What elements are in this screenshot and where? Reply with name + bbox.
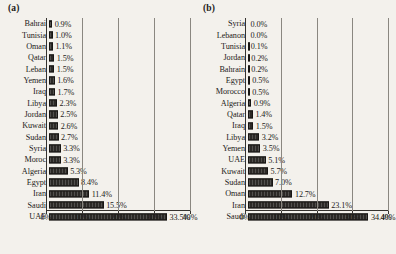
category-label: Iran [203, 201, 248, 210]
bar-value-label: 8.4% [79, 178, 98, 187]
bar-row: Egypt8.4% [8, 177, 190, 188]
bar-track: 0.1% [248, 41, 388, 52]
bar-value-label: 3.3% [61, 155, 80, 164]
category-label: Morocco [203, 87, 248, 96]
bar-row: Oman1.1% [8, 41, 190, 52]
bar [49, 145, 61, 152]
bar-track: 8.4% [49, 177, 190, 188]
category-label: Moroc [8, 155, 49, 164]
bar-row: Leban1.5% [8, 63, 190, 74]
bar-track: 1.5% [248, 120, 388, 131]
bar [248, 134, 259, 141]
category-label: Lebanon [203, 31, 248, 40]
bar-track: 0.5% [248, 75, 388, 86]
x-tick-label: 20% [110, 213, 125, 223]
bar-value-label: 1.5% [54, 65, 73, 74]
x-tick-label: 40% [182, 213, 197, 223]
bar-value-label: 1.5% [253, 121, 272, 130]
bar-row: Egypt0.5% [203, 75, 388, 86]
bar-value-label: 0.0% [248, 19, 267, 28]
category-label: Algeria [203, 99, 248, 108]
gridline [388, 18, 389, 211]
bar-rows-a: Bahrai0.9%Tunisia1.0%Oman1.1%Qatar1.5%Le… [8, 18, 190, 211]
category-label: Libya [203, 133, 248, 142]
bar-value-label: 0.5% [250, 76, 269, 85]
bar-row: Syria3.3% [8, 143, 190, 154]
category-label: Iran [8, 189, 49, 198]
category-label: Tunisia [8, 31, 49, 40]
bar [49, 156, 61, 163]
bar-row: Saudi15.5% [8, 200, 190, 211]
bar-row: Oman12.7% [203, 188, 388, 199]
bar [49, 99, 57, 106]
bar-track: 2.5% [49, 109, 190, 120]
bar [49, 122, 58, 129]
bar-track: 3.5% [248, 143, 388, 154]
bar-track: 0.0% [248, 29, 388, 40]
bar [248, 179, 273, 186]
bar-track: 3.3% [49, 143, 190, 154]
category-label: Sudan [203, 178, 248, 187]
bar-track: 5.7% [248, 165, 388, 176]
bar-track: 1.7% [49, 86, 190, 97]
bar-track: 7.0% [248, 177, 388, 188]
bar-row: Algeria0.9% [203, 97, 388, 108]
category-label: Syria [8, 144, 49, 153]
category-label: Jordan [203, 53, 248, 62]
bar-track: 0.0% [248, 18, 388, 29]
bar-value-label: 1.7% [55, 87, 74, 96]
bar-track: 11.4% [49, 188, 190, 199]
category-label: Libya [8, 99, 49, 108]
bar-row: Morocco0.5% [203, 86, 388, 97]
bar-value-label: 23.1% [329, 201, 352, 210]
bar-row: Tunisia0.1% [203, 41, 388, 52]
bar-row: Moroc3.3% [8, 154, 190, 165]
bar-value-label: 5.1% [266, 155, 285, 164]
bar-track: 2.3% [49, 97, 190, 108]
bar-value-label: 3.3% [61, 144, 80, 153]
plot-area-b: Syria0.0%Lebanon0.0%Tunisia0.1%Jordan0.2… [203, 18, 388, 221]
category-label: Iraq [8, 87, 49, 96]
category-label: Saudi [8, 201, 49, 210]
bar-row: Lebanon0.0% [203, 29, 388, 40]
bar-value-label: 15.5% [104, 201, 127, 210]
bar-value-label: 7.0% [273, 178, 292, 187]
bar-row: Kuwait5.7% [203, 165, 388, 176]
bar-track: 1.0% [49, 29, 190, 40]
panel-label-b: (b) [203, 3, 215, 13]
bar [248, 190, 292, 197]
bar-value-label: 2.7% [59, 133, 78, 142]
category-label: Tunisia [203, 42, 248, 51]
bar-value-label: 2.5% [58, 110, 77, 119]
bar-value-label: 0.9% [251, 99, 270, 108]
bar [248, 156, 266, 163]
category-label: Algeria [8, 167, 49, 176]
category-label: Bahrain [203, 65, 248, 74]
bar-value-label: 0.5% [250, 87, 269, 96]
bar-row: Algeria5.3% [8, 165, 190, 176]
bar-track: 2.6% [49, 120, 190, 131]
bar [49, 190, 89, 197]
bar-row: Iran23.1% [203, 200, 388, 211]
bar-track: 3.2% [248, 131, 388, 142]
bar-row: Sudan2.7% [8, 131, 190, 142]
category-label: Yemen [203, 144, 248, 153]
bar-value-label: 3.5% [260, 144, 279, 153]
plot-area-a: Bahrai0.9%Tunisia1.0%Oman1.1%Qatar1.5%Le… [8, 18, 190, 221]
bar-value-label: 0.2% [249, 65, 268, 74]
bar-row: Yemen3.5% [203, 143, 388, 154]
bar [49, 111, 58, 118]
category-label: UAE [203, 155, 248, 164]
bar-track: 1.1% [49, 41, 190, 52]
category-label: Oman [203, 189, 248, 198]
category-label: Qatar [203, 110, 248, 119]
bar-value-label: 0.9% [52, 19, 71, 28]
category-label: Jordan [8, 110, 49, 119]
bar [248, 145, 260, 152]
x-tick-label: 40% [380, 213, 395, 223]
bar-track: 5.3% [49, 165, 190, 176]
bar [248, 202, 329, 209]
bar-value-label: 1.6% [55, 76, 74, 85]
bar-track: 2.7% [49, 131, 190, 142]
category-label: Bahrai [8, 19, 49, 28]
